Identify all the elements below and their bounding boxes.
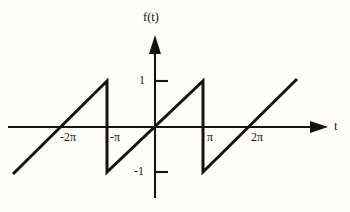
x-tick-label-positive-pi: π (207, 131, 213, 143)
x-axis-arrowhead (310, 121, 328, 133)
x-tick-label-negative-pi: -π (110, 131, 120, 143)
x-tick-label-positive-two-pi: 2π (251, 131, 263, 143)
sawtooth-wave-figure: f(t) t 1 -1 -2π -π π 2π (0, 0, 350, 212)
plot-canvas (0, 0, 350, 212)
y-axis-label: f(t) (143, 11, 159, 24)
y-axis-arrowhead (149, 35, 161, 54)
x-tick-label-negative-two-pi: -2π (60, 131, 76, 143)
x-axis-label: t (334, 120, 337, 133)
y-tick-label-positive-one: 1 (139, 74, 145, 86)
y-tick-label-negative-one: -1 (134, 165, 144, 177)
